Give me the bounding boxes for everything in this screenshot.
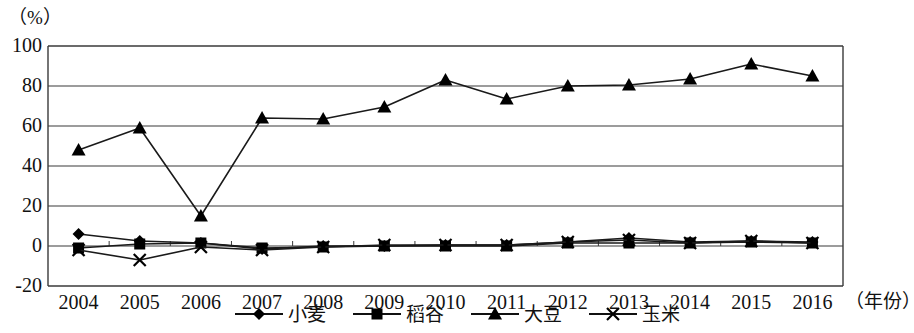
data-point-marker — [377, 100, 391, 113]
line-chart: （%） 100806040200-20 20042005200620072008… — [0, 0, 914, 333]
data-point-marker — [73, 243, 84, 254]
data-point-marker — [744, 57, 758, 70]
legend-item-label: 稻谷 — [406, 303, 444, 325]
legend-item-label: 大豆 — [524, 303, 562, 325]
legend-item-square[interactable]: 稻谷 — [352, 303, 444, 325]
data-point-marker — [257, 243, 268, 254]
data-point-marker — [134, 239, 145, 250]
legend-item-label: 玉米 — [642, 303, 680, 325]
data-point-marker — [255, 111, 269, 124]
data-point-marker — [439, 73, 453, 86]
data-point-marker — [194, 209, 208, 222]
legend-item-cross[interactable]: 玉米 — [588, 303, 680, 325]
data-point-marker — [73, 228, 85, 240]
cross-marker-icon — [588, 305, 638, 323]
data-point-marker — [253, 308, 265, 320]
series-line — [79, 64, 813, 216]
data-point-marker — [72, 143, 86, 156]
legend-item-triangle[interactable]: 大豆 — [470, 303, 562, 325]
legend-item-diamond[interactable]: 小麦 — [234, 303, 326, 325]
square-marker-icon — [352, 305, 402, 323]
chart-legend: 小麦稻谷大豆玉米 — [0, 303, 914, 325]
data-point-marker — [133, 121, 147, 134]
legend-item-label: 小麦 — [288, 303, 326, 325]
data-point-marker — [372, 309, 383, 320]
diamond-marker-icon — [234, 305, 284, 323]
series-triangle — [72, 57, 820, 222]
triangle-marker-icon — [470, 305, 520, 323]
plot-area — [0, 0, 914, 333]
